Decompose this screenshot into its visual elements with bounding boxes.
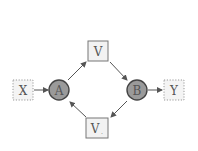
node-b: B xyxy=(127,80,147,100)
node-b-label: B xyxy=(133,84,142,98)
node-v-top-label: V xyxy=(93,45,103,59)
node-x-label: X xyxy=(19,84,28,98)
node-v-top: V xyxy=(88,41,108,61)
diagram-canvas: X A V B Y V . xyxy=(0,0,198,151)
node-x: X xyxy=(13,80,33,100)
edge-b-vbottom xyxy=(111,101,127,117)
edge-v-b xyxy=(110,62,127,80)
node-y-label: Y xyxy=(169,84,179,98)
edge-vbottom-a xyxy=(70,102,86,117)
node-a: A xyxy=(49,80,69,100)
node-v-bottom-subscript: . xyxy=(101,128,103,135)
node-y: Y xyxy=(164,80,184,100)
node-v-bottom: V . xyxy=(86,118,108,138)
node-v-bottom-label: V xyxy=(90,122,100,136)
edge-a-v xyxy=(68,62,86,80)
node-a-label: A xyxy=(54,84,64,98)
